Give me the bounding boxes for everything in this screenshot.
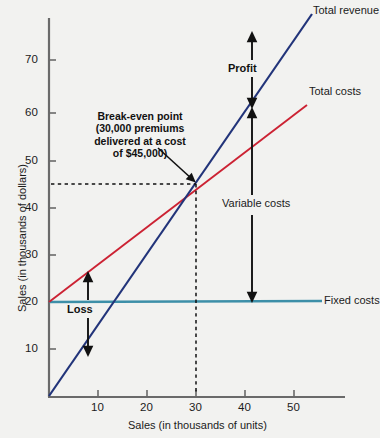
loss-label: Loss [67,303,93,315]
x-tick-label-40: 40 [238,401,251,413]
breakeven-annotation-line-1: Break-even point [74,110,206,122]
y-tick-label-70: 70 [25,53,38,65]
series-label-total-revenue: Total revenue [313,4,379,16]
series-line-fixed-costs [49,301,322,302]
profit-label: Profit [228,62,257,74]
x-tick-label-30: 30 [189,401,202,413]
x-tick-label-10: 10 [91,401,104,413]
breakeven-annotation-line-2: (30,000 premiums [74,122,206,134]
x-tick-label-20: 20 [140,401,153,413]
breakeven-annotation: Break-even point (30,000 premiums delive… [74,110,206,160]
y-tick-label-60: 60 [25,106,38,118]
breakeven-annotation-line-3: delivered at a cost [74,135,206,147]
y-axis-title: Sales (in thousands of dollars) [16,164,28,312]
series-label-total-costs: Total costs [309,85,361,97]
x-axis-title: Sales (in thousands of units) [128,419,267,431]
variable-costs-label: Variable costs [222,197,290,209]
x-tick-label-50: 50 [287,401,300,413]
breakeven-annotation-line-4: of $45,000) [74,147,206,159]
y-tick-label-10: 10 [25,342,38,354]
series-label-fixed-costs: Fixed costs [324,294,380,306]
